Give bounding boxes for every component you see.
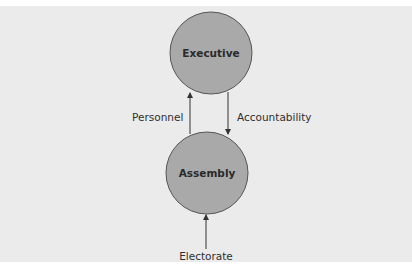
personnel-label: Personnel <box>132 111 183 123</box>
accountability-label: Accountability <box>237 111 312 123</box>
diagram-canvas <box>0 0 412 274</box>
electorate-label: Electorate <box>179 250 233 262</box>
assembly-label: Assembly <box>179 167 236 179</box>
executive-label: Executive <box>182 47 239 59</box>
